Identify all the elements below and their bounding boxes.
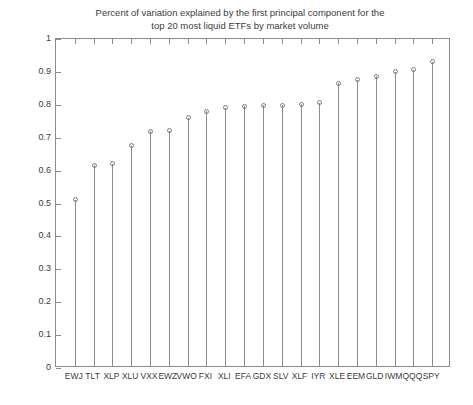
stem-line [301,104,302,366]
y-axis-tick [56,335,61,336]
x-axis-tick-top [413,39,414,44]
y-axis-tick-label: 0.9 [11,66,51,76]
x-axis-tick-top [94,39,95,44]
x-axis-tick-top [432,39,433,44]
stem-line [319,103,320,366]
y-axis-tick [56,236,61,237]
y-axis-tick [56,171,61,172]
stem-line [244,106,245,366]
x-axis-tick-label: SPY [411,371,451,381]
data-point-marker [186,115,191,120]
stem-line [169,131,170,366]
stem-line [395,72,396,366]
x-axis-tick-top [131,39,132,44]
x-axis-tick-top [263,39,264,44]
stem-line [376,76,377,366]
x-axis-tick-top [282,39,283,44]
data-point-marker [411,67,416,72]
y-axis-tick-label: 0.6 [11,165,51,175]
stem-line [225,108,226,366]
stem-line [131,146,132,366]
stem-line [338,83,339,366]
y-axis-tick-label: 0.7 [11,132,51,142]
stem-line [263,105,264,366]
data-point-marker [204,109,209,114]
y-axis-tick [56,72,61,73]
data-point-marker [299,102,304,107]
data-point-marker [73,197,78,202]
data-point-marker [393,69,398,74]
x-axis-tick-top [225,39,226,44]
x-axis-tick-top [395,39,396,44]
y-axis-tick [56,368,61,369]
x-axis-tick-top [301,39,302,44]
stem-line [413,70,414,366]
x-axis-tick-top [376,39,377,44]
data-point-marker [317,100,322,105]
stem-line [206,111,207,366]
x-axis-tick-top [112,39,113,44]
x-axis-tick-top [75,39,76,44]
data-point-marker [261,103,266,108]
x-axis-tick-top [169,39,170,44]
y-axis-tick [56,269,61,270]
data-point-marker [129,143,134,148]
data-point-marker [374,74,379,79]
data-point-marker [280,103,285,108]
y-axis-tick [56,39,61,40]
data-point-marker [336,81,341,86]
y-axis-tick [56,204,61,205]
stem-line [150,131,151,366]
stem-line [94,165,95,366]
data-point-marker [355,77,360,82]
y-axis-tick [56,105,61,106]
y-axis-tick [56,138,61,139]
data-point-marker [242,104,247,109]
y-axis-tick [56,302,61,303]
data-point-marker [148,129,153,134]
y-axis-tick-label: 0 [11,362,51,372]
data-point-marker [430,59,435,64]
data-point-marker [92,163,97,168]
x-axis-tick-top [319,39,320,44]
x-axis-tick-top [206,39,207,44]
y-axis-tick-label: 0.3 [11,263,51,273]
stem-line [357,80,358,366]
stem-line [432,62,433,366]
chart-title: Percent of variation explained by the fi… [40,6,440,32]
y-axis-tick-label: 0.2 [11,296,51,306]
data-point-marker [167,128,172,133]
x-axis-tick-top [338,39,339,44]
y-axis-tick-label: 1 [11,33,51,43]
x-axis-tick-top [357,39,358,44]
y-axis-tick-label: 0.8 [11,99,51,109]
y-axis-tick-label: 0.4 [11,230,51,240]
y-axis-tick-label: 0.5 [11,198,51,208]
stem-line [188,118,189,366]
data-point-marker [223,105,228,110]
stem-line [282,105,283,366]
data-point-marker [110,161,115,166]
x-axis-tick-top [188,39,189,44]
pca-variance-chart: Percent of variation explained by the fi… [0,0,473,405]
stem-line [75,200,76,366]
x-axis-tick-top [150,39,151,44]
plot-frame [55,38,450,367]
stem-line [112,164,113,366]
y-axis-tick-label: 0.1 [11,329,51,339]
x-axis-tick-top [244,39,245,44]
